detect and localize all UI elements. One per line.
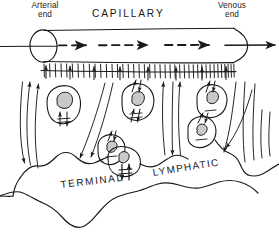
- cell-nucleus: [197, 124, 207, 135]
- venous-end-label-line1: Venous: [218, 1, 246, 10]
- cell-nucleus: [119, 152, 129, 163]
- cell-nucleus: [57, 92, 73, 108]
- interstitial-cell: [47, 86, 81, 126]
- terminal-lymphatic-boundary: [0, 140, 279, 227]
- right-margin-flow-lines: [261, 110, 270, 158]
- cell-nucleus: [207, 91, 219, 104]
- axial-blood-flow-arrows: [59, 45, 209, 46]
- arterial-end-label: Arterialend: [24, 2, 66, 20]
- interstitial-cell: [188, 113, 216, 148]
- cell-nucleus: [107, 141, 117, 152]
- cell-nucleus: [132, 92, 145, 106]
- capillary-lymphatic-diagram: Arterialend Venousend CAPILLARY TERMINAL…: [0, 0, 279, 240]
- venous-end-label: Venousend: [210, 2, 254, 20]
- diagram-canvas: [0, 0, 279, 240]
- arterial-end-label-line1: Arterial: [31, 1, 58, 10]
- interstitial-cell: [122, 80, 154, 122]
- arterial-end-label-line2: end: [38, 10, 52, 19]
- capillary-tube: [0, 28, 248, 63]
- capillary-label: CAPILLARY: [92, 8, 165, 19]
- interstitial-cell: [197, 81, 227, 118]
- venous-end-label-line2: end: [225, 10, 239, 19]
